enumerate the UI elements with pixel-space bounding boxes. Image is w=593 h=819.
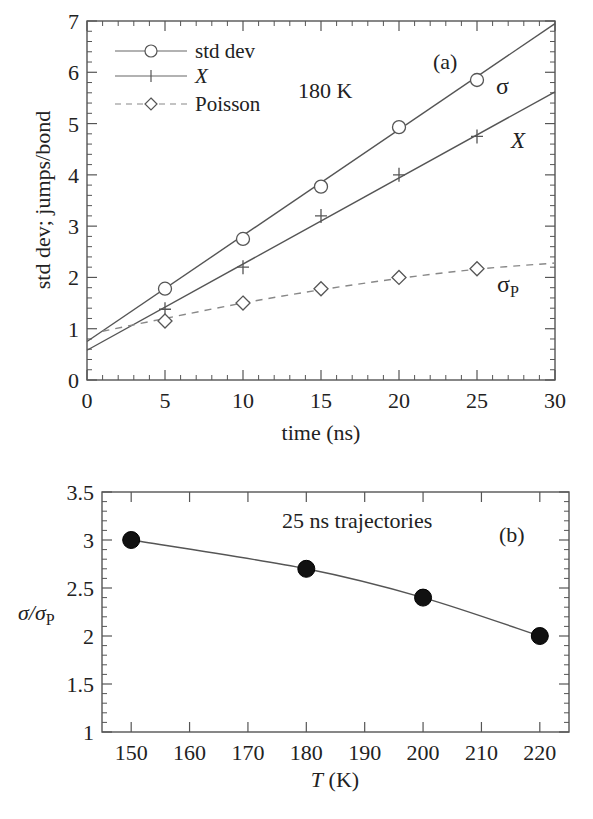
- x-tick-label: 15: [310, 388, 332, 413]
- legend-std-dev-label: std dev: [195, 39, 256, 63]
- y-tick-label: 1: [68, 317, 79, 342]
- series-line----p: [131, 540, 540, 636]
- sigma-curve-label: σ: [496, 73, 509, 99]
- plus-marker-icon: [315, 209, 327, 223]
- x-tick-label: 160: [173, 740, 206, 765]
- y-tick-label: 2.5: [67, 576, 95, 601]
- x-tick-label: 210: [465, 740, 498, 765]
- filled-circle-marker-icon: [123, 532, 140, 549]
- diamond-marker-icon: [314, 282, 328, 296]
- x-tick-label: 30: [544, 388, 566, 413]
- x-tick-label: 200: [407, 740, 440, 765]
- panel-a-temperature-annotation: 180 K: [298, 78, 353, 103]
- y-tick-label: 2: [68, 265, 79, 290]
- x-tick-label: 170: [231, 740, 264, 765]
- legend-poisson-label: Poisson: [195, 92, 261, 116]
- filled-circle-marker-icon: [298, 560, 315, 577]
- x-tick-label: 5: [160, 388, 171, 413]
- y-tick-label: 3.5: [67, 480, 95, 505]
- circle-marker-icon: [393, 121, 406, 134]
- figure: 05101520253001234567 1501601701801902002…: [0, 0, 593, 819]
- filled-circle-marker-icon: [531, 628, 548, 645]
- panel-a-label: (a): [433, 49, 457, 74]
- diamond-marker-icon: [145, 98, 157, 110]
- panel-a-ylabel: std dev; jumps/bond: [30, 111, 55, 289]
- y-tick-label: 1.5: [67, 672, 95, 697]
- y-tick-label: 6: [68, 60, 79, 85]
- x-tick-label: 20: [388, 388, 410, 413]
- x-tick-label: 10: [232, 388, 254, 413]
- panel-b-annotation: 25 ns trajectories: [282, 508, 432, 533]
- x-tick-label: 0: [82, 388, 93, 413]
- x-tick-label: 150: [115, 740, 148, 765]
- y-tick-label: 2: [83, 624, 94, 649]
- circle-marker-icon: [159, 282, 172, 295]
- diamond-marker-icon: [392, 270, 406, 284]
- panel-a-xlabel: time (ns): [282, 420, 361, 445]
- panel-b-ylabel: σ/σP: [18, 600, 55, 628]
- x-tick-label: 220: [523, 740, 556, 765]
- legend-x-label: X: [194, 64, 209, 88]
- x-tick-label: 25: [466, 388, 488, 413]
- y-tick-label: 0: [68, 368, 79, 393]
- y-tick-label: 5: [68, 112, 79, 137]
- panel-a-plot: 05101520253001234567: [68, 9, 566, 413]
- filled-circle-marker-icon: [415, 589, 432, 606]
- y-tick-label: 7: [68, 9, 79, 34]
- y-tick-label: 1: [83, 720, 94, 745]
- plus-marker-icon: [471, 129, 483, 143]
- panel-b-label: (b): [499, 522, 525, 547]
- x-tick-label: 180: [290, 740, 323, 765]
- y-tick-label: 3: [68, 214, 79, 239]
- plot-frame: [87, 21, 555, 380]
- diamond-marker-icon: [158, 314, 172, 328]
- x-tick-label: 190: [348, 740, 381, 765]
- y-tick-label: 3: [83, 528, 94, 553]
- circle-marker-icon: [315, 180, 328, 193]
- panel-b-xlabel: T (K): [311, 767, 359, 792]
- diamond-marker-icon: [236, 296, 250, 310]
- y-tick-label: 4: [68, 163, 79, 188]
- circle-marker-icon: [237, 232, 250, 245]
- x-curve-label: X: [510, 128, 526, 153]
- diamond-marker-icon: [470, 262, 484, 276]
- legend: std dev X Poisson: [115, 39, 261, 116]
- sigma-p-curve-label: σP: [497, 271, 519, 300]
- circle-marker-icon: [471, 73, 484, 86]
- circle-marker-icon: [145, 45, 157, 57]
